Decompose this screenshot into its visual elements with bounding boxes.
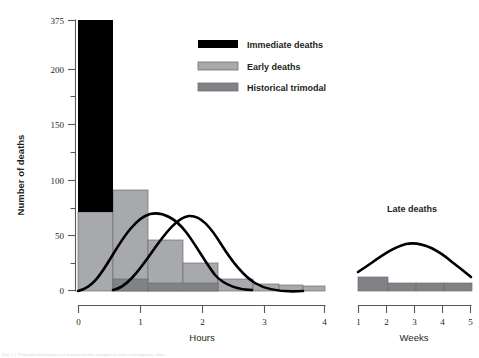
x-axis-title-hours: Hours xyxy=(189,332,215,343)
x-ticklabel-w-2: 2 xyxy=(384,317,389,327)
legend-label-historical: Historical trimodal xyxy=(247,83,326,93)
legend-label-early: Early deaths xyxy=(247,62,301,72)
bar-historical-2 xyxy=(148,283,218,291)
figure-caption: Fig 1.1 Trimodal distribution of trauma … xyxy=(2,351,252,358)
chart-svg: 375 200 150 100 50 0 Number of deaths xyxy=(0,0,479,358)
y-ticklabel-100: 100 xyxy=(51,176,65,186)
x-ticklabel-h-3: 3 xyxy=(262,317,267,327)
legend: Immediate deaths Early deaths Historical… xyxy=(198,40,326,93)
y-axis: 375 200 150 100 50 0 xyxy=(51,16,76,296)
curve-late-deaths xyxy=(358,243,471,277)
y-ticklabel-150: 150 xyxy=(51,120,65,130)
y-axis-title: Number of deaths xyxy=(15,135,26,216)
weeks-panel-bars xyxy=(358,277,472,291)
y-ticklabel-375: 375 xyxy=(51,16,65,26)
legend-swatch-immediate xyxy=(198,40,238,48)
x-ticklabel-h-0: 0 xyxy=(76,317,81,327)
x-ticklabel-w-4: 4 xyxy=(440,317,445,327)
bar-weeks-historical-3 xyxy=(444,283,472,291)
x-ticklabel-h-4: 4 xyxy=(322,317,327,327)
x-ticklabel-h-1: 1 xyxy=(138,317,143,327)
y-ticklabel-200: 200 xyxy=(51,65,65,75)
bar-early-1 xyxy=(113,190,148,291)
x-axis-weeks: 1 2 3 4 5 Weeks xyxy=(356,306,473,344)
legend-label-immediate: Immediate deaths xyxy=(247,40,323,50)
y-ticklabel-50: 50 xyxy=(55,231,65,241)
x-axis-hours: 0 1 2 3 4 Hours xyxy=(76,306,327,344)
bar-weeks-historical-0 xyxy=(358,277,388,291)
y-ticklabel-0: 0 xyxy=(60,286,65,296)
bar-early-7 xyxy=(303,286,325,291)
bar-immediate-0 xyxy=(78,20,113,212)
x-ticklabel-w-1: 1 xyxy=(356,317,361,327)
x-ticklabel-w-5: 5 xyxy=(468,317,473,327)
bar-weeks-historical-2 xyxy=(416,283,444,291)
bar-weeks-historical-1 xyxy=(388,283,416,291)
x-axis-title-weeks: Weeks xyxy=(400,332,429,343)
legend-swatch-early xyxy=(198,62,238,70)
x-ticklabel-w-3: 3 xyxy=(412,317,417,327)
trauma-deaths-figure: 375 200 150 100 50 0 Number of deaths xyxy=(0,0,479,358)
x-ticklabel-h-2: 2 xyxy=(200,317,205,327)
legend-swatch-historical xyxy=(198,83,238,91)
late-deaths-annotation: Late deaths xyxy=(387,204,437,214)
